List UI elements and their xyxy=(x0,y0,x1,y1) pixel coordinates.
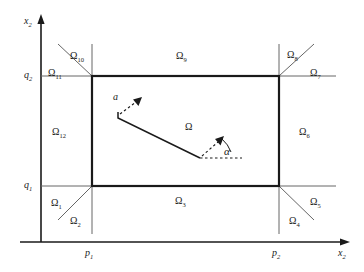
region-label-omega-6: Ω6 xyxy=(299,127,310,140)
y-axis-arrowhead xyxy=(37,14,44,24)
x-axis-label: x2 xyxy=(338,248,346,261)
region-label-omega-7: Ω7 xyxy=(310,68,321,81)
x-axis-arrowhead xyxy=(340,238,350,245)
region-label-omega-8: Ω8 xyxy=(287,50,298,63)
region-label-omega-10: Ω10 xyxy=(70,51,84,64)
diagram-canvas: x2 x2 q1 q2 p1 p2 Ω Ω1 Ω2 Ω3 Ω4 Ω5 Ω6 Ω7… xyxy=(0,0,364,272)
vector-a-arrowhead xyxy=(133,97,142,106)
region-label-omega-2: Ω2 xyxy=(70,216,81,229)
angle-alpha-label: α xyxy=(224,146,230,157)
region-label-omega: Ω xyxy=(185,122,192,132)
vector-a-shaft xyxy=(120,102,136,114)
vector-polyline xyxy=(118,112,200,158)
x-tick-p1: p1 xyxy=(85,248,93,261)
region-label-omega-5: Ω5 xyxy=(310,197,321,210)
region-separator-group xyxy=(41,44,336,234)
y-axis-label: x2 xyxy=(24,16,32,29)
vector-a-label: a xyxy=(113,92,118,102)
y-tick-q1: q1 xyxy=(24,180,32,193)
diagonal-bottom-right xyxy=(279,186,314,220)
angle-direction-shaft xyxy=(202,142,218,156)
region-label-omega-11: Ω11 xyxy=(48,68,62,81)
x-tick-p2: p2 xyxy=(272,248,280,261)
region-label-omega-3: Ω3 xyxy=(175,196,186,209)
region-label-omega-9: Ω9 xyxy=(176,51,187,64)
y-tick-q2: q2 xyxy=(24,70,32,83)
region-label-omega-1: Ω1 xyxy=(51,198,62,211)
angle-direction-arrowhead xyxy=(215,136,224,146)
region-label-omega-12: Ω12 xyxy=(52,127,66,140)
region-label-omega-4: Ω4 xyxy=(289,216,300,229)
